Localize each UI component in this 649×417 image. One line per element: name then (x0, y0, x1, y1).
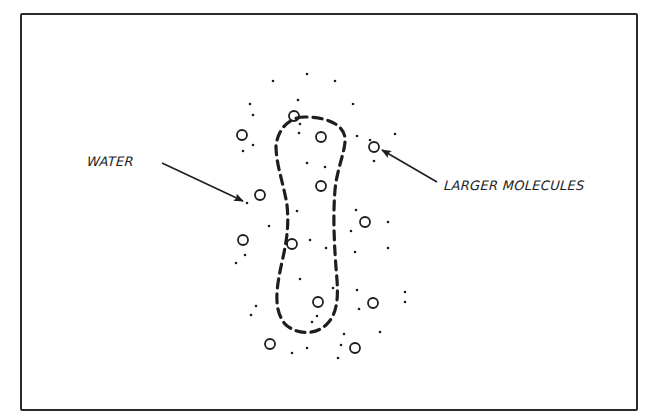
water-molecule (337, 357, 340, 360)
water-molecule (255, 305, 258, 308)
water-molecule (299, 123, 302, 126)
water-molecule (316, 315, 319, 318)
water-molecule (268, 225, 271, 228)
larger-molecule (265, 339, 275, 349)
water-molecule (352, 103, 355, 106)
water-molecule (404, 291, 407, 294)
water-molecule (297, 99, 300, 102)
larger-molecule (316, 132, 326, 142)
water-molecule (334, 80, 337, 83)
water-molecule (299, 278, 302, 281)
larger-molecule (238, 235, 248, 245)
water-molecule (296, 210, 299, 213)
water-molecule (252, 144, 255, 147)
water-molecule (379, 331, 382, 334)
water-molecule (244, 254, 247, 257)
water-molecule (242, 150, 245, 153)
water-molecule (306, 162, 309, 165)
larger-molecules-arrow (382, 150, 437, 182)
water-label: WATER (86, 154, 134, 169)
membrane-outline (276, 117, 345, 333)
water-molecule (291, 352, 294, 355)
larger-molecule (255, 190, 265, 200)
water-molecule (356, 289, 359, 292)
water-molecule (354, 251, 357, 254)
water-molecule (325, 247, 328, 250)
water-molecule (332, 287, 335, 290)
water-molecule (369, 139, 372, 142)
water-molecule (350, 230, 353, 233)
water-molecule (235, 262, 238, 265)
water-molecule (358, 308, 361, 311)
water-molecule (373, 160, 376, 163)
water-molecule (306, 73, 309, 76)
larger-molecule (316, 181, 326, 191)
water-molecules-group (235, 73, 407, 360)
water-molecule (298, 132, 301, 135)
larger-molecules-group (237, 111, 379, 353)
larger-molecule (350, 343, 360, 353)
water-molecule (250, 314, 253, 317)
water-molecule (356, 135, 359, 138)
water-molecule (394, 133, 397, 136)
larger-molecules-label: LARGER MOLECULES (443, 178, 585, 193)
larger-molecule (237, 130, 247, 140)
larger-molecule (289, 111, 299, 121)
larger-molecule (369, 142, 379, 152)
water-molecule (404, 301, 407, 304)
water-molecule (355, 209, 358, 212)
water-molecule (340, 344, 343, 347)
larger-molecule (313, 297, 323, 307)
water-molecule (311, 321, 314, 324)
water-molecule (309, 239, 312, 242)
water-molecule (343, 333, 346, 336)
larger-molecule (287, 239, 297, 249)
water-molecule (246, 202, 249, 205)
water-molecule (272, 80, 275, 83)
water-molecule (387, 247, 390, 250)
larger-molecule (368, 298, 378, 308)
water-molecule (249, 103, 252, 106)
water-molecule (324, 166, 327, 169)
larger-molecule (360, 217, 370, 227)
water-arrow (162, 163, 243, 201)
water-molecule (387, 221, 390, 224)
water-molecule (252, 114, 255, 117)
membrane-diagram (0, 0, 649, 417)
water-molecule (306, 347, 309, 350)
